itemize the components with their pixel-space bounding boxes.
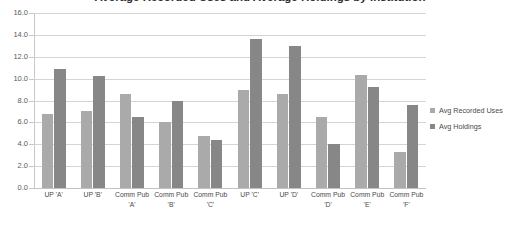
bar-avg-holdings	[132, 117, 144, 188]
bar-group	[112, 13, 151, 188]
legend-label: Avg Recorded Uses	[439, 106, 503, 115]
y-axis-tick-mark	[29, 101, 34, 102]
bar-avg-holdings	[93, 76, 105, 188]
bar-chart: Average Recorded Uses and Average Holdin…	[0, 0, 517, 227]
legend-swatch-icon	[430, 124, 435, 129]
y-axis-tick-label: 4.0	[2, 140, 28, 148]
gridline	[34, 188, 426, 189]
y-axis-tick-label: 2.0	[2, 162, 28, 170]
bar-avg-recorded-uses	[238, 90, 250, 188]
x-axis-labels: UP 'A'UP 'B'Comm Pub'A'Comm Pub'B'Comm P…	[34, 190, 426, 227]
chart-legend: Avg Recorded UsesAvg Holdings	[430, 106, 515, 138]
bar-avg-holdings	[368, 87, 380, 188]
bar-avg-recorded-uses	[277, 94, 289, 188]
bar-group	[191, 13, 230, 188]
bar-group	[308, 13, 347, 188]
y-axis-tick-mark	[29, 35, 34, 36]
bar-group	[387, 13, 426, 188]
y-axis-tick-label: 10.0	[2, 75, 28, 83]
y-axis-tick-label: 0.0	[2, 184, 28, 192]
y-axis-tick-label: 6.0	[2, 118, 28, 126]
bar-avg-holdings	[289, 46, 301, 188]
y-axis-tick-mark	[29, 79, 34, 80]
y-axis-tick-mark	[29, 122, 34, 123]
chart-title: Average Recorded Uses and Average Holdin…	[60, 0, 460, 3]
bar-avg-recorded-uses	[355, 75, 367, 188]
bar-group	[230, 13, 269, 188]
bar-group	[34, 13, 73, 188]
bar-avg-recorded-uses	[316, 117, 328, 188]
bar-avg-recorded-uses	[42, 114, 54, 188]
y-axis-tick-mark	[29, 188, 34, 189]
y-axis-labels: 16.014.012.010.08.06.04.02.00.0	[0, 0, 28, 227]
legend-label: Avg Holdings	[439, 122, 481, 131]
y-axis-tick-mark	[29, 57, 34, 58]
legend-item: Avg Holdings	[430, 122, 515, 131]
bar-avg-holdings	[328, 144, 340, 188]
bar-avg-recorded-uses	[81, 111, 93, 188]
bar-avg-holdings	[211, 140, 223, 188]
y-axis-tick-mark	[29, 144, 34, 145]
y-axis-tick-label: 16.0	[2, 9, 28, 17]
bar-avg-holdings	[172, 101, 184, 189]
bar-avg-recorded-uses	[159, 122, 171, 188]
bar-group	[269, 13, 308, 188]
bar-group	[73, 13, 112, 188]
bar-avg-holdings	[407, 105, 419, 188]
legend-item: Avg Recorded Uses	[430, 106, 515, 115]
y-axis-tick-label: 14.0	[2, 31, 28, 39]
y-axis-tick-label: 8.0	[2, 97, 28, 105]
bar-avg-recorded-uses	[120, 94, 132, 188]
plot-area	[34, 13, 426, 188]
bar-avg-holdings	[54, 69, 66, 188]
x-axis-category-label: Comm Pub'F'	[383, 190, 430, 209]
bar-avg-recorded-uses	[198, 136, 210, 189]
bar-group	[348, 13, 387, 188]
legend-swatch-icon	[430, 108, 435, 113]
y-axis-tick-mark	[29, 13, 34, 14]
y-axis-tick-label: 12.0	[2, 53, 28, 61]
bar-group	[152, 13, 191, 188]
bar-avg-recorded-uses	[394, 152, 406, 188]
bar-avg-holdings	[250, 39, 262, 188]
y-axis-tick-mark	[29, 166, 34, 167]
